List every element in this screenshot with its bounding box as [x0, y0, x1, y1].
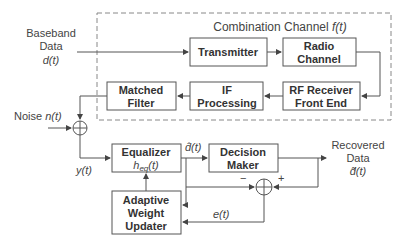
- y-label: y(t): [75, 164, 92, 176]
- if-processing-block: IF Processing: [190, 82, 263, 110]
- block-diagram: Combination Channel f(t) Transmitter Rad…: [0, 0, 402, 248]
- svg-text:d̃(t): d̃(t): [350, 165, 367, 177]
- minus-sign: −: [240, 172, 246, 184]
- svg-text:Processing: Processing: [197, 97, 256, 109]
- plus-sign: +: [278, 172, 284, 184]
- combination-channel-title: Combination Channel f(t): [213, 20, 346, 34]
- svg-text:Transmitter: Transmitter: [198, 46, 259, 58]
- equalizer-block: Equalizer heq(t): [112, 144, 181, 173]
- radio-channel-block: Radio Channel: [283, 38, 356, 66]
- y-to-equalizer-arrow: [80, 135, 110, 158]
- svg-text:Maker: Maker: [227, 159, 260, 171]
- svg-text:Weight: Weight: [128, 207, 165, 219]
- rf-receiver-block: RF Receiver Front End: [283, 82, 360, 110]
- baseband-label: Baseband Data d(t): [26, 27, 76, 66]
- filter-to-sum-arrow: [80, 96, 107, 119]
- svg-text:Recovered: Recovered: [331, 139, 384, 151]
- recovered-data-label: Recovered Data d̃(t): [331, 139, 384, 177]
- dhat-label: d̂(t): [185, 141, 202, 153]
- transmitter-block: Transmitter: [190, 38, 267, 66]
- noise-summing-junction: [73, 121, 87, 135]
- svg-text:Channel: Channel: [297, 53, 340, 65]
- noise-label: Noise n(t): [14, 110, 62, 122]
- svg-text:Matched: Matched: [119, 84, 164, 96]
- svg-text:Decision: Decision: [220, 146, 266, 158]
- svg-text:Adaptive: Adaptive: [123, 194, 169, 206]
- error-summing-junction: [256, 179, 272, 195]
- svg-text:Filter: Filter: [128, 97, 156, 109]
- svg-text:Baseband: Baseband: [26, 27, 76, 39]
- matched-filter-block: Matched Filter: [107, 82, 176, 110]
- svg-text:Front End: Front End: [295, 97, 347, 109]
- svg-text:Radio: Radio: [304, 40, 335, 52]
- svg-text:Data: Data: [39, 40, 63, 52]
- svg-text:RF Receiver: RF Receiver: [289, 84, 353, 96]
- svg-text:Equalizer: Equalizer: [122, 146, 172, 158]
- svg-text:d(t): d(t): [43, 54, 60, 66]
- svg-text:IF: IF: [222, 84, 232, 96]
- dhat-to-updater-arrow: [183, 187, 186, 205]
- svg-text:Updater: Updater: [125, 220, 167, 232]
- error-label: e(t): [213, 208, 230, 220]
- svg-text:Data: Data: [346, 152, 370, 164]
- decision-maker-block: Decision Maker: [209, 144, 278, 172]
- adaptive-weight-updater-block: Adaptive Weight Updater: [112, 191, 181, 234]
